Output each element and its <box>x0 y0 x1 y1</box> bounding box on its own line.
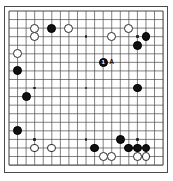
white-stone[interactable] <box>107 152 116 161</box>
black-stone[interactable] <box>90 144 99 153</box>
black-stone[interactable] <box>116 135 125 144</box>
board-point-label: A <box>108 59 116 66</box>
black-stone[interactable] <box>142 144 151 153</box>
hoshi-point <box>85 35 87 37</box>
white-stone[interactable] <box>133 152 142 161</box>
hoshi-point <box>136 138 138 140</box>
white-stone[interactable] <box>64 24 73 33</box>
black-stone[interactable] <box>13 66 22 75</box>
hoshi-point <box>85 138 87 140</box>
white-stone[interactable] <box>99 152 108 161</box>
white-stone[interactable] <box>13 49 22 58</box>
black-stone[interactable] <box>133 84 142 93</box>
go-board-container: 1A <box>0 0 173 181</box>
white-stone[interactable] <box>142 152 151 161</box>
hoshi-point <box>33 87 35 89</box>
black-stone[interactable] <box>47 24 56 33</box>
black-stone[interactable] <box>99 58 108 67</box>
black-stone[interactable] <box>13 126 22 135</box>
go-diagram-root: 1A <box>0 0 173 181</box>
hoshi-point <box>85 87 87 89</box>
white-stone[interactable] <box>124 24 133 33</box>
hoshi-point <box>136 35 138 37</box>
black-stone[interactable] <box>142 32 151 41</box>
black-stone[interactable] <box>133 144 142 153</box>
go-stones-layer: 1A <box>0 0 173 181</box>
white-stone[interactable] <box>30 24 39 33</box>
white-stone[interactable] <box>107 32 116 41</box>
white-stone[interactable] <box>47 144 56 153</box>
white-stone[interactable] <box>30 32 39 41</box>
white-stone[interactable] <box>30 144 39 153</box>
black-stone[interactable] <box>133 41 142 50</box>
black-stone[interactable] <box>22 92 31 101</box>
black-stone[interactable] <box>124 144 133 153</box>
hoshi-point <box>33 138 35 140</box>
